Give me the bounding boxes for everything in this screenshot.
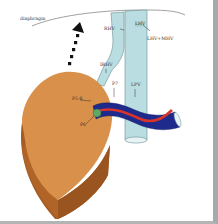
liver-diagram — [0, 0, 213, 221]
nodule-p6 — [93, 109, 101, 117]
label-lhv-mhv: LHV+MHV — [147, 37, 173, 42]
label-p7: P7 — [112, 82, 118, 87]
label-lhv: LHV — [135, 22, 145, 27]
dotted-arrow — [68, 22, 84, 65]
label-irhv: IRHV — [100, 63, 113, 68]
label-rhv: RHV — [104, 27, 115, 32]
label-diaphragm: diaphragm — [20, 17, 45, 22]
diaphragm-line — [32, 10, 185, 26]
label-p6: P6 — [80, 123, 86, 128]
label-p5-8: P5-8 — [72, 97, 83, 102]
label-lpv: LPV — [131, 83, 140, 88]
